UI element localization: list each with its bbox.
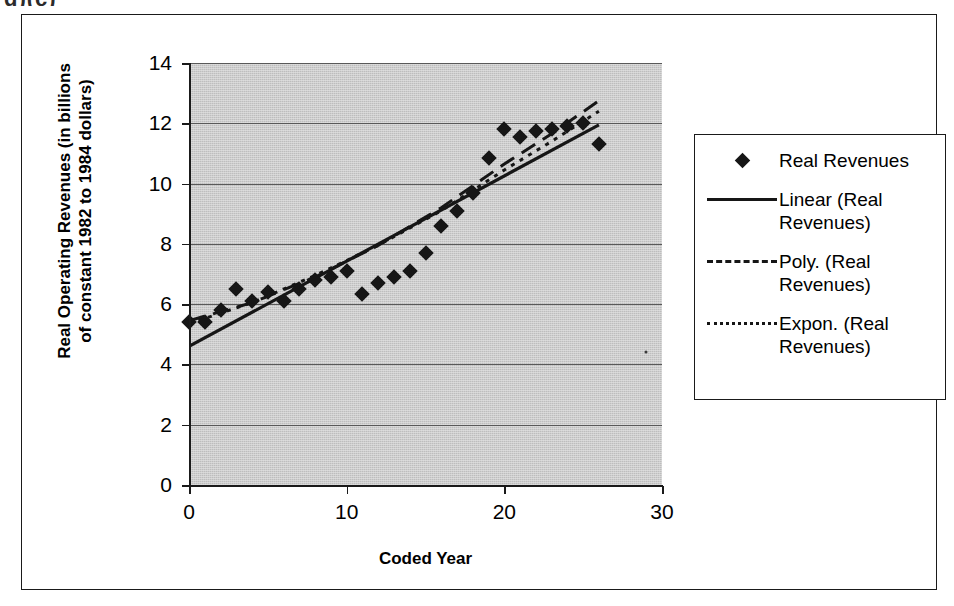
dotted-line-icon: [705, 312, 779, 334]
y-tick-mark: [182, 485, 189, 487]
solid-line-icon: [705, 188, 779, 210]
diamond-marker-icon: [705, 149, 779, 171]
legend-label-real-revenues: Real Revenues: [779, 149, 909, 172]
scan-artifact-dot: [645, 351, 648, 354]
plot-area: [189, 63, 662, 485]
y-tick-label: 0: [160, 474, 172, 495]
x-tick-mark: [662, 486, 664, 494]
legend-entry-real-revenues: Real Revenues: [705, 149, 935, 172]
y-tick-mark: [182, 244, 189, 246]
legend: Real Revenues Linear (Real Revenues) Pol…: [694, 134, 946, 400]
y-axis-title-line-2: of constant 1982 to 1984 dollars): [75, 79, 96, 343]
trendline-layer: [189, 63, 662, 485]
x-tick-mark: [189, 486, 191, 494]
y-tick-mark: [182, 63, 189, 65]
x-tick-mark: [504, 486, 506, 494]
y-tick-mark: [182, 184, 189, 186]
x-tick-label: 20: [493, 501, 516, 522]
legend-entry-linear: Linear (Real Revenues): [705, 188, 935, 234]
figure-frame: Real Operating Revenues (in billions of …: [21, 14, 937, 590]
legend-entry-expon: Expon. (Real Revenues): [705, 312, 935, 358]
legend-label-expon: Expon. (Real Revenues): [779, 312, 935, 358]
y-tick-label: 6: [160, 293, 172, 314]
y-axis-title-line-1: Real Operating Revenues (in billions: [54, 63, 75, 359]
x-axis-line: [189, 485, 663, 487]
y-axis-title: Real Operating Revenues (in billions of …: [51, 46, 99, 376]
x-tick-mark: [347, 486, 349, 494]
y-tick-label: 12: [149, 112, 172, 133]
y-tick-mark: [182, 364, 189, 366]
x-tick-label: 0: [183, 501, 195, 522]
legend-label-linear: Linear (Real Revenues): [779, 188, 935, 234]
x-tick-label: 30: [650, 501, 673, 522]
x-tick-label: 10: [335, 501, 358, 522]
y-tick-label: 4: [160, 353, 172, 374]
y-axis-line: [189, 63, 191, 486]
y-tick-mark: [182, 425, 189, 427]
legend-label-poly: Poly. (Real Revenues): [779, 250, 935, 296]
scan-artifact-text: g)(c): [4, 0, 57, 6]
y-tick-mark: [182, 123, 189, 125]
y-tick-mark: [182, 304, 189, 306]
y-tick-label: 2: [160, 414, 172, 435]
x-axis-title: Coded Year: [189, 549, 662, 569]
legend-entry-poly: Poly. (Real Revenues): [705, 250, 935, 296]
y-tick-label: 14: [149, 52, 172, 73]
y-tick-label: 10: [149, 173, 172, 194]
dashed-line-icon: [705, 250, 779, 272]
trendline-dotted: [189, 111, 599, 324]
y-tick-label: 8: [160, 233, 172, 254]
